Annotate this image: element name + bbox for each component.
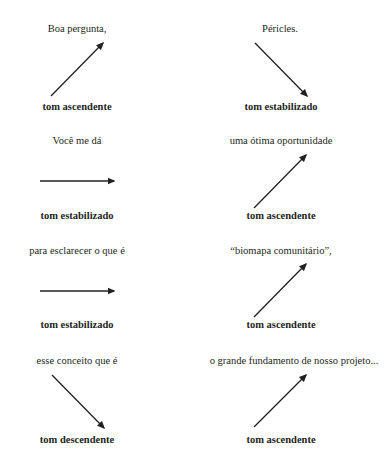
phrase-4: uma ótima oportunidade	[230, 135, 333, 146]
tone-label-3: tom estabilizado	[40, 210, 113, 221]
tone-label-2: tom estabilizado	[244, 101, 317, 112]
intonation-arrows	[0, 0, 391, 471]
rising-arrow-icon	[254, 375, 306, 427]
rising-arrow-icon	[254, 264, 306, 317]
phrase-5: para esclarecer o que é	[29, 245, 125, 256]
rising-arrow-icon	[254, 155, 306, 208]
tone-label-6: tom ascendente	[246, 319, 315, 330]
tone-label-7: tom descendente	[40, 434, 114, 445]
phrase-7: esse conceito que é	[37, 355, 118, 366]
rising-arrow-icon	[51, 43, 103, 96]
tone-label-5: tom estabilizado	[40, 319, 113, 330]
falling-arrow-icon	[52, 375, 104, 428]
phrase-2: Péricles.	[262, 23, 298, 34]
falling-arrow-icon	[255, 43, 307, 96]
tone-label-4: tom ascendente	[246, 210, 315, 221]
phrase-1: Boa pergunta,	[48, 23, 107, 34]
tone-label-8: tom ascendente	[246, 434, 315, 445]
phrase-6: “biomapa comunitário”,	[230, 245, 331, 256]
tone-label-1: tom ascendente	[42, 101, 111, 112]
phrase-8: o grande fundamento de nosso projeto...	[210, 355, 379, 366]
phrase-3: Você me dá	[53, 135, 102, 146]
